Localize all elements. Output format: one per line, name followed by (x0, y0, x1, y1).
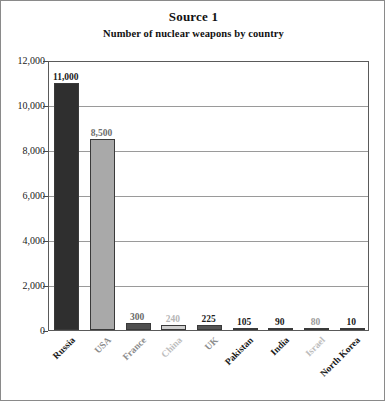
title-block: Source 1 Number of nuclear weapons by co… (1, 9, 385, 40)
bar-value-label: 10 (328, 317, 374, 327)
bar (197, 325, 222, 330)
bar (90, 139, 115, 330)
chart-subtitle: Number of nuclear weapons by country (1, 27, 385, 40)
y-axis-tick-mark (43, 331, 48, 332)
bar (340, 328, 365, 330)
bar (304, 328, 329, 330)
bar-value-label: 8,500 (79, 128, 125, 138)
gridline (49, 106, 368, 107)
bar (126, 323, 151, 330)
y-axis-tick-label: 10,000 (18, 101, 46, 111)
y-axis-tick-label: 4,000 (23, 236, 46, 246)
chart-figure: Source 1 Number of nuclear weapons by co… (0, 0, 385, 401)
bar (161, 325, 186, 330)
bar (233, 328, 258, 330)
chart-title: Source 1 (1, 9, 385, 24)
y-axis-tick-label: 12,000 (18, 56, 46, 66)
bar (268, 328, 293, 330)
y-axis-tick-label: 2,000 (23, 281, 46, 291)
y-axis-tick-label: 8,000 (23, 146, 46, 156)
bar (54, 83, 79, 331)
plot-area (48, 61, 369, 331)
y-axis-tick-label: 6,000 (23, 191, 46, 201)
bar-value-label: 11,000 (43, 72, 89, 82)
